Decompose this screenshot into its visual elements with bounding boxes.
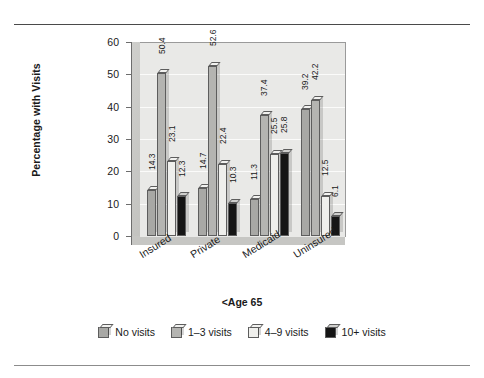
legend-swatch-icon: [325, 327, 336, 338]
legend-label: 10+ visits: [342, 326, 386, 338]
bar-front-face: [311, 100, 320, 236]
bar-series-container: 14.350.423.112.314.752.622.410.311.337.4…: [140, 42, 345, 236]
x-axis-category-labels: InsuredPrivateMedicaidUninsured: [131, 244, 345, 300]
bar[interactable]: 14.7: [198, 188, 207, 236]
bar[interactable]: 25.5: [270, 154, 279, 236]
bar-group: 14.350.423.112.3: [140, 42, 191, 236]
bar-side-face: [289, 149, 292, 232]
bar-value-label: 50.4: [158, 37, 167, 54]
y-tick-label-20: 20: [107, 165, 119, 177]
bar-front-face: [250, 199, 259, 236]
legend-label: No visits: [115, 326, 155, 338]
bar-front-face: [218, 164, 227, 236]
bar-front-face: [270, 154, 279, 236]
y-tick-20: 20: [126, 171, 131, 172]
legend-swatch-icon: [248, 327, 259, 338]
bar-front-face: [147, 190, 156, 236]
bar-value-label: 6.1: [331, 185, 340, 197]
bar[interactable]: 22.4: [218, 164, 227, 236]
bar-front-face: [177, 196, 186, 236]
legend-label: 4–9 visits: [265, 326, 309, 338]
y-tick-0: 0: [126, 236, 131, 237]
bar-front-face: [167, 161, 176, 236]
y-tick-40: 40: [126, 107, 131, 108]
legend-swatch-icon: [98, 327, 109, 338]
chart-legend: No visits1–3 visits4–9 visits10+ visits: [0, 326, 484, 338]
top-divider-rule: [14, 24, 470, 25]
bar-group: 11.337.425.525.8: [243, 42, 294, 236]
legend-label: 1–3 visits: [188, 326, 232, 338]
bar-value-label: 23.1: [168, 125, 177, 142]
bar[interactable]: 10.3: [228, 203, 237, 236]
plot-area: 0102030405060 14.350.423.112.314.752.622…: [131, 42, 345, 244]
legend-swatch-top: [326, 324, 340, 328]
y-axis-title: Percentage with Visits: [30, 35, 42, 205]
bar-value-label: 14.3: [148, 154, 157, 171]
bar-value-label: 11.3: [250, 164, 259, 180]
bar-value-label: 52.6: [209, 30, 218, 47]
bar-front-face: [260, 115, 269, 236]
bar-value-label: 37.4: [260, 79, 269, 96]
y-tick-label-60: 60: [107, 36, 119, 48]
y-axis-line: [131, 42, 132, 245]
bar-front-face: [301, 109, 310, 236]
bar-value-label: 10.3: [229, 167, 238, 184]
bar-value-label: 39.2: [301, 73, 310, 90]
y-tick-label-0: 0: [113, 230, 119, 242]
y-tick-10: 10: [126, 204, 131, 205]
bar-value-label: 22.4: [219, 128, 228, 145]
bar[interactable]: 42.2: [311, 100, 320, 236]
bar-value-label: 42.2: [311, 64, 320, 81]
bar[interactable]: 14.3: [147, 190, 156, 236]
bar-value-label: 14.7: [199, 152, 208, 169]
y-tick-60: 60: [126, 42, 131, 43]
y-tick-label-50: 50: [107, 68, 119, 80]
plot-left-depth-panel: [131, 42, 140, 244]
bar[interactable]: 23.1: [167, 161, 176, 236]
bar-chart-figure: Percentage with Visits 0102030405060 14.…: [0, 28, 484, 358]
legend-swatch-icon: [171, 327, 182, 338]
bar-front-face: [157, 73, 166, 236]
bar[interactable]: 50.4: [157, 73, 166, 236]
bar-value-label: 25.5: [270, 118, 279, 135]
bottom-divider-rule: [14, 365, 470, 366]
legend-item[interactable]: 4–9 visits: [248, 326, 309, 338]
bar-front-face: [198, 188, 207, 236]
bar[interactable]: 39.2: [301, 109, 310, 236]
x-axis-title: <Age 65: [0, 296, 484, 308]
bar-front-face: [228, 203, 237, 236]
bar[interactable]: 11.3: [250, 199, 259, 236]
bar-group: 39.242.212.56.1: [294, 42, 345, 236]
bar-value-label: 12.3: [178, 160, 187, 177]
legend-swatch-top: [172, 324, 186, 328]
bar-front-face: [208, 66, 217, 236]
y-tick-30: 30: [126, 139, 131, 140]
legend-swatch-top: [100, 324, 114, 328]
bar[interactable]: 25.8: [280, 153, 289, 236]
bar-value-label: 12.5: [321, 160, 330, 177]
y-tick-label-40: 40: [107, 101, 119, 113]
bar[interactable]: 37.4: [260, 115, 269, 236]
legend-swatch-top: [249, 324, 263, 328]
y-tick-50: 50: [126, 74, 131, 75]
legend-item[interactable]: No visits: [98, 326, 155, 338]
y-tick-label-10: 10: [107, 198, 119, 210]
legend-item[interactable]: 10+ visits: [325, 326, 386, 338]
bar-front-face: [280, 153, 289, 236]
bar-group: 14.752.622.410.3: [191, 42, 242, 236]
y-tick-label-30: 30: [107, 133, 119, 145]
bar-side-face: [186, 192, 189, 232]
bar-value-label: 25.8: [280, 117, 289, 134]
legend-item[interactable]: 1–3 visits: [171, 326, 232, 338]
bar[interactable]: 52.6: [208, 66, 217, 236]
bar[interactable]: 12.3: [177, 196, 186, 236]
bar-side-face: [237, 199, 240, 232]
